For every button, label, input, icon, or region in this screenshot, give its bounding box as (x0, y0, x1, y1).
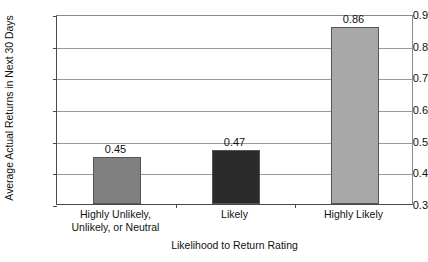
y-axis-tick-mark (53, 143, 57, 144)
y-axis-tick-mark (53, 16, 57, 17)
bar[interactable] (331, 27, 379, 204)
bar-chart-figure: Average Actual Returns in Next 30 Days 0… (0, 0, 428, 262)
bar-value-label: 0.86 (343, 14, 364, 25)
y-axis-tick-mark (53, 174, 57, 175)
bar-value-label: 0.45 (105, 144, 126, 155)
plot-area (56, 15, 413, 205)
y-axis-tick-mark (53, 111, 57, 112)
x-axis-category-label: Likely (221, 208, 248, 221)
x-axis-tick-mark (295, 204, 296, 208)
y-axis-tick-mark (53, 48, 57, 49)
y-axis-title: Average Actual Returns in Next 30 Days (0, 0, 18, 215)
y-axis-title-text: Average Actual Returns in Next 30 Days (3, 15, 15, 200)
x-axis-title: Likelihood to Return Rating (56, 239, 413, 251)
x-axis-category-label: Highly Likely (324, 208, 383, 221)
x-axis-category-label: Highly Unlikely, Unlikely, or Neutral (72, 208, 160, 233)
bar-value-label: 0.47 (224, 137, 245, 148)
y-axis-tick-mark (53, 79, 57, 80)
bar[interactable] (212, 150, 260, 204)
bar[interactable] (93, 157, 141, 205)
x-axis-tick-mark (176, 204, 177, 208)
y-axis-tick-mark (53, 206, 57, 207)
